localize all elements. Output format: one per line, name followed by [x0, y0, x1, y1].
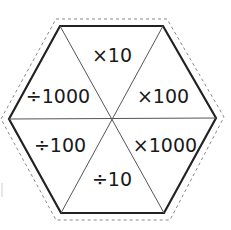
segment-label-lower-right: ×1000: [133, 134, 197, 156]
edge-mark: [1, 183, 3, 197]
segment-label-upper-left: ÷1000: [26, 85, 90, 107]
segment-label-top: ×10: [92, 44, 132, 66]
segment-label-lower-left: ÷100: [34, 134, 86, 156]
segment-label-upper-right: ×100: [137, 85, 189, 107]
hexagon-spinner-diagram: ×10 ÷1000 ×100 ÷100 ×1000 ÷10: [0, 0, 231, 230]
segment-label-bottom: ÷10: [92, 168, 132, 190]
